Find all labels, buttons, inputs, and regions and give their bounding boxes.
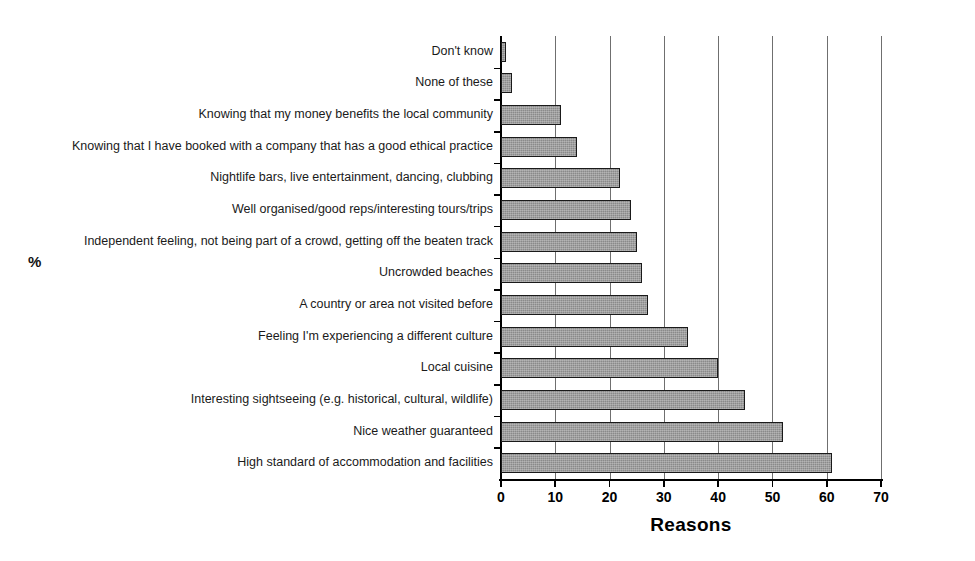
bar-row: None of these — [501, 68, 512, 100]
bar-chart: % Don't knowNone of theseKnowing that my… — [0, 0, 975, 561]
x-tick-30 — [663, 479, 665, 487]
bar — [501, 390, 745, 410]
y-tick — [494, 163, 501, 165]
category-label: None of these — [0, 76, 493, 89]
bar — [501, 73, 512, 93]
category-label: Feeling I'm experiencing a different cul… — [0, 330, 493, 343]
bar-row: Nightlife bars, live entertainment, danc… — [501, 163, 620, 195]
bar — [501, 263, 642, 283]
y-tick — [494, 99, 501, 101]
bar-row: Knowing that my money benefits the local… — [501, 99, 561, 131]
category-label: Knowing that I have booked with a compan… — [0, 140, 493, 153]
x-tick-60 — [826, 479, 828, 487]
bar — [501, 168, 620, 188]
bar-row: A country or area not visited before — [501, 289, 648, 321]
bar-row: Feeling I'm experiencing a different cul… — [501, 321, 688, 353]
x-tick-label-20: 20 — [602, 489, 618, 505]
x-tick-label-60: 60 — [819, 489, 835, 505]
x-tick-label-50: 50 — [765, 489, 781, 505]
bar — [501, 453, 832, 473]
y-tick — [494, 131, 501, 133]
bar — [501, 422, 783, 442]
category-label: Knowing that my money benefits the local… — [0, 108, 493, 121]
bar-row: Interesting sightseeing (e.g. historical… — [501, 384, 745, 416]
y-tick — [494, 352, 501, 354]
x-tick-10 — [554, 479, 556, 487]
bar-row: Uncrowded beaches — [501, 258, 642, 290]
x-tick-50 — [772, 479, 774, 487]
category-label: Well organised/good reps/interesting tou… — [0, 203, 493, 216]
x-tick-70 — [880, 479, 882, 487]
y-tick — [494, 321, 501, 323]
category-label: A country or area not visited before — [0, 298, 493, 311]
category-label: Don't know — [0, 45, 493, 58]
bar-row: Local cuisine — [501, 352, 718, 384]
bar — [501, 327, 688, 347]
x-tick-40 — [717, 479, 719, 487]
bar-row: Nice weather guaranteed — [501, 416, 783, 448]
gridline-70 — [881, 36, 882, 479]
bar-row: Well organised/good reps/interesting tou… — [501, 194, 631, 226]
bar — [501, 42, 506, 62]
y-tick — [494, 384, 501, 386]
x-tick-label-30: 30 — [656, 489, 672, 505]
category-label: Independent feeling, not being part of a… — [0, 235, 493, 248]
category-label: Local cuisine — [0, 361, 493, 374]
bar — [501, 105, 561, 125]
plot-area: Don't knowNone of theseKnowing that my m… — [501, 36, 881, 479]
bar-row: Knowing that I have booked with a compan… — [501, 131, 577, 163]
bar-row: High standard of accommodation and facil… — [501, 447, 832, 479]
y-tick — [494, 68, 501, 70]
category-label: High standard of accommodation and facil… — [0, 456, 493, 469]
bar-row: Don't know — [501, 36, 506, 68]
x-tick-20 — [609, 479, 611, 487]
x-tick-label-70: 70 — [873, 489, 889, 505]
x-tick-label-40: 40 — [710, 489, 726, 505]
bar — [501, 295, 648, 315]
y-tick — [494, 258, 501, 260]
gridline-50 — [772, 36, 773, 479]
bar — [501, 358, 718, 378]
y-tick — [494, 226, 501, 228]
x-tick-label-10: 10 — [547, 489, 563, 505]
y-tick — [494, 416, 501, 418]
category-label: Nice weather guaranteed — [0, 425, 493, 438]
bar-row: Independent feeling, not being part of a… — [501, 226, 637, 258]
gridline-60 — [827, 36, 828, 479]
category-label: Nightlife bars, live entertainment, danc… — [0, 171, 493, 184]
bar — [501, 200, 631, 220]
y-tick — [494, 194, 501, 196]
bar — [501, 137, 577, 157]
bar — [501, 232, 637, 252]
category-label: Uncrowded beaches — [0, 266, 493, 279]
x-tick-0 — [500, 479, 502, 487]
category-label: Interesting sightseeing (e.g. historical… — [0, 393, 493, 406]
y-tick — [494, 447, 501, 449]
y-tick — [494, 289, 501, 291]
x-tick-label-0: 0 — [497, 489, 505, 505]
x-axis-title: Reasons — [501, 514, 881, 536]
